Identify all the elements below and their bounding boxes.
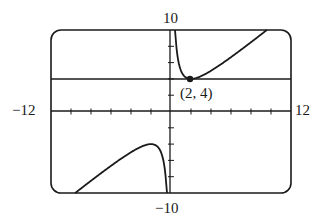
minimum-point-marker	[187, 76, 193, 82]
ymin-label: −10	[155, 201, 178, 216]
curve-right-branch	[175, 30, 267, 79]
graph-canvas	[0, 0, 318, 224]
xmax-label: 12	[295, 103, 310, 118]
point-label: (2, 4)	[180, 86, 213, 101]
xmin-label: −12	[12, 103, 35, 118]
ymax-label: 10	[163, 11, 178, 26]
curve-left-branch	[75, 144, 167, 193]
